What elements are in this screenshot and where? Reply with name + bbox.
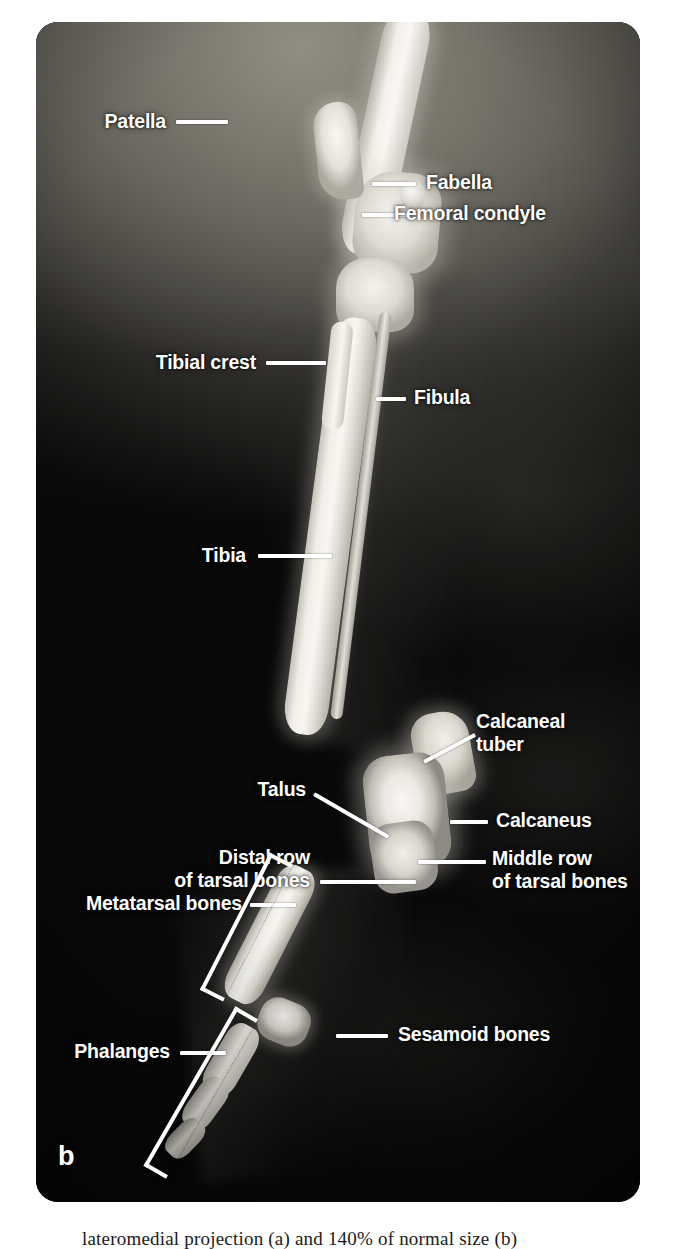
label-tibial-crest: Tibial crest [96,352,256,373]
figure-caption: lateromedial projection (a) and 140% of … [82,1228,602,1249]
leader-line-distal-row [320,880,416,884]
leader-line-middle-row [418,860,486,864]
leader-line-patella [176,120,228,124]
leader-line-fabella [372,182,416,186]
leader-line-tibia [258,554,332,558]
leader-line-calcaneal-tuber [423,733,476,764]
radiograph-figure: Patella Fabella Femoral condyle Tibial c… [36,22,640,1202]
label-calcaneal-tuber-line2: tuber [476,734,524,755]
leader-line-fibula [376,397,406,401]
label-femoral-condyle: Femoral condyle [394,203,546,224]
label-fibula: Fibula [414,387,470,408]
leader-line-calcaneus [450,820,488,824]
label-calcaneal-tuber-line1: Calcaneal [476,711,565,732]
label-middle-row-line2: of tarsal bones [492,871,628,892]
annotation-layer: Patella Fabella Femoral condyle Tibial c… [36,22,640,1202]
label-fabella: Fabella [426,172,492,193]
panel-letter-label: b [58,1141,75,1172]
label-sesamoid-bones: Sesamoid bones [398,1024,550,1045]
bracket-phalanges [143,1006,258,1178]
leader-line-tibial-crest [266,361,326,365]
label-metatarsal-bones: Metatarsal bones [44,893,242,914]
label-calcaneus: Calcaneus [496,810,592,831]
label-tibia: Tibia [146,545,246,566]
label-patella: Patella [88,111,166,132]
leader-line-sesamoid-bones [336,1034,388,1038]
label-phalanges: Phalanges [36,1041,170,1062]
label-middle-row-line1: Middle row [492,848,592,869]
leader-line-talus [313,792,389,838]
label-talus: Talus [222,779,306,800]
